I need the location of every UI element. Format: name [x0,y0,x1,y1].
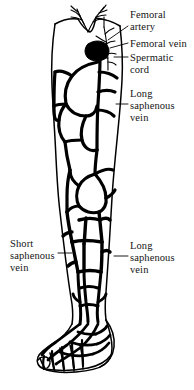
label-short-saphenous-vein: Short saphenous vein [10,238,55,273]
label-line: Long [130,240,175,252]
varicose-network-ankle [73,271,106,324]
label-line: saphenous [130,252,175,264]
label-line: Spermatic [130,52,173,64]
label-femoral-vein: Femoral vein [130,38,187,50]
leader-femoral-artery [108,26,128,40]
label-line: vein [10,262,55,274]
varicose-network-calf [63,212,110,272]
label-line: saphenous [10,250,55,262]
label-line: Short [10,238,55,250]
label-line: artery [130,21,166,33]
label-femoral-artery: Femoral artery [130,9,166,33]
label-spermatic-cord: Spermatic cord [130,52,173,76]
label-line: Femoral [130,9,166,21]
label-line: Long [130,88,175,100]
label-line: saphenous [130,100,175,112]
saphenous-opening-fossa [85,41,109,61]
varicose-network-thigh [54,58,117,170]
varicose-vein-leg-figure: Femoral artery Femoral vein Spermatic co… [0,0,194,390]
varicose-network-knee [67,150,115,213]
label-long-saphenous-vein-lower: Long saphenous vein [130,240,175,275]
label-line: vein [130,264,175,276]
leader-femoral-vein [110,43,128,48]
label-line: cord [130,64,173,76]
label-long-saphenous-vein-upper: Long saphenous vein [130,88,175,123]
label-line: vein [130,112,175,124]
label-line: Femoral vein [130,38,187,50]
varicose-network-foot [42,324,110,369]
